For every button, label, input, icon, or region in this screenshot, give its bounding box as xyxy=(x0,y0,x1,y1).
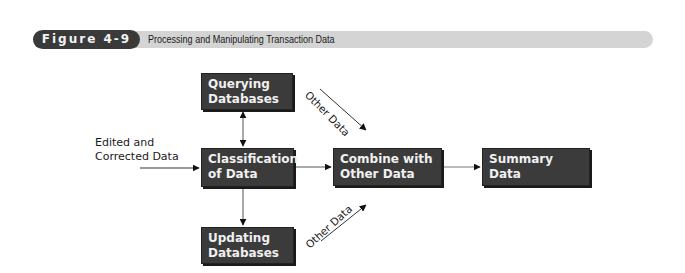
node-label-line-1: Combine with xyxy=(340,152,441,167)
input-label-line-1: Edited and xyxy=(95,136,179,150)
node-label-line-2: Databases xyxy=(208,246,293,261)
node-label-line-2: Databases xyxy=(208,92,292,107)
node-label-line-1: Classification xyxy=(208,152,293,167)
node-label-line-2: Other Data xyxy=(340,167,441,182)
node-summary-data: Summary Data xyxy=(482,148,590,186)
node-querying-databases: Querying Databases xyxy=(201,73,293,110)
node-label-line-2: of Data xyxy=(208,167,293,182)
node-classification-of-data: Classification of Data xyxy=(201,148,294,187)
input-label-line-2: Corrected Data xyxy=(95,150,179,164)
node-label-line-1: Querying xyxy=(208,77,292,92)
input-label: Edited and Corrected Data xyxy=(95,136,179,164)
node-label-line-1: Summary xyxy=(489,152,589,167)
node-combine-with-other-data: Combine with Other Data xyxy=(333,148,442,186)
node-label-line-1: Updating xyxy=(208,231,293,246)
node-updating-databases: Updating Databases xyxy=(201,227,294,264)
node-label-line-2: Data xyxy=(489,167,589,182)
